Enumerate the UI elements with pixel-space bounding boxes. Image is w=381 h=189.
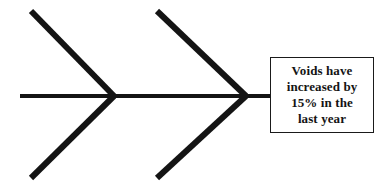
- upper-left-bone: [31, 11, 114, 96]
- callout-line-1: Voids have: [292, 63, 353, 79]
- fishbone-diagram-canvas: Voids have increased by 15% in the last …: [0, 0, 381, 189]
- lower-right-bone: [157, 96, 246, 178]
- callout-box: Voids have increased by 15% in the last …: [270, 57, 374, 133]
- callout-line-4: last year: [298, 111, 346, 127]
- upper-right-bone: [157, 11, 246, 96]
- callout-line-2: increased by: [287, 79, 358, 95]
- lower-left-bone: [31, 96, 114, 178]
- callout-line-3: 15% in the: [291, 95, 353, 111]
